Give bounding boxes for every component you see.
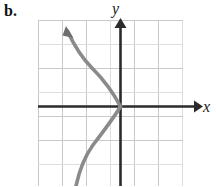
y-axis-arrowhead (115, 18, 127, 28)
figure-screenshot: b. (0, 0, 216, 186)
grid-lines (38, 20, 183, 186)
parabola-lower-branch (76, 107, 121, 187)
curve-arrowhead-upper (63, 26, 74, 38)
graph-figure: y x (0, 0, 216, 186)
axis-label-x: x (203, 98, 210, 116)
axis-label-y: y (112, 0, 119, 18)
coordinate-plane-svg (0, 0, 216, 186)
x-axis-arrowhead (194, 101, 203, 113)
